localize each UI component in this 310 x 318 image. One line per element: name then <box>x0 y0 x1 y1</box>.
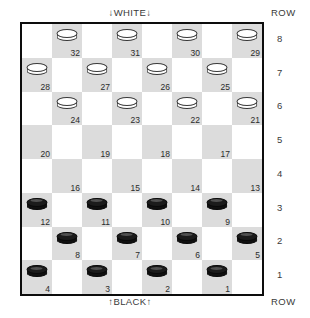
square-number-label: 5 <box>255 250 260 260</box>
board-square-light <box>82 227 112 261</box>
piece-face <box>237 97 258 106</box>
row-number-3: 3 <box>277 202 289 213</box>
board-square-22[interactable]: 22 <box>172 92 202 126</box>
board-square-9[interactable]: 9 <box>202 193 232 227</box>
square-number-label: 23 <box>131 115 140 125</box>
row-number-6: 6 <box>277 100 289 111</box>
board-square-light <box>172 58 202 92</box>
board-square-2[interactable]: 2 <box>142 260 172 294</box>
white-side-caption: ↓WHITE↓ <box>0 7 260 18</box>
black-piece-5[interactable] <box>237 232 258 246</box>
board-square-7[interactable]: 7 <box>112 227 142 261</box>
white-piece-28[interactable] <box>27 63 48 77</box>
black-piece-2[interactable] <box>147 265 168 279</box>
board-square-1[interactable]: 1 <box>202 260 232 294</box>
white-piece-24[interactable] <box>57 97 78 111</box>
board-square-31[interactable]: 31 <box>112 24 142 58</box>
square-number-label: 21 <box>251 115 260 125</box>
board-square-11[interactable]: 11 <box>82 193 112 227</box>
board-square-30[interactable]: 30 <box>172 24 202 58</box>
white-piece-21[interactable] <box>237 97 258 111</box>
board-square-20[interactable]: 20 <box>22 125 52 159</box>
square-number-label: 13 <box>251 183 260 193</box>
board-square-18[interactable]: 18 <box>142 125 172 159</box>
white-piece-23[interactable] <box>117 97 138 111</box>
black-piece-3[interactable] <box>87 265 108 279</box>
board-square-light <box>202 159 232 193</box>
board-square-24[interactable]: 24 <box>52 92 82 126</box>
square-number-label: 8 <box>75 250 80 260</box>
white-piece-31[interactable] <box>117 29 138 43</box>
white-piece-27[interactable] <box>87 63 108 77</box>
black-piece-1[interactable] <box>207 265 228 279</box>
board-square-29[interactable]: 29 <box>232 24 262 58</box>
board-square-21[interactable]: 21 <box>232 92 262 126</box>
square-number-label: 17 <box>221 149 230 159</box>
white-piece-29[interactable] <box>237 29 258 43</box>
black-piece-10[interactable] <box>147 198 168 212</box>
square-number-label: 9 <box>225 217 230 227</box>
board-square-10[interactable]: 10 <box>142 193 172 227</box>
board-square-6[interactable]: 6 <box>172 227 202 261</box>
square-number-label: 19 <box>101 149 110 159</box>
white-piece-26[interactable] <box>147 63 168 77</box>
black-piece-6[interactable] <box>177 232 198 246</box>
piece-highlight <box>151 199 163 202</box>
square-number-label: 2 <box>165 284 170 294</box>
white-piece-25[interactable] <box>207 63 228 77</box>
board-square-32[interactable]: 32 <box>52 24 82 58</box>
piece-face <box>57 29 78 38</box>
board-square-light <box>172 125 202 159</box>
square-number-label: 16 <box>71 183 80 193</box>
black-piece-12[interactable] <box>27 198 48 212</box>
black-piece-4[interactable] <box>27 265 48 279</box>
square-number-label: 24 <box>71 115 80 125</box>
piece-highlight <box>151 267 163 270</box>
piece-face <box>177 97 198 106</box>
board-square-light <box>82 92 112 126</box>
board-square-19[interactable]: 19 <box>82 125 112 159</box>
checkers-board-page: ↓WHITE↓ ROW 87654321 3231302928272625242… <box>0 0 310 318</box>
board-square-light <box>52 58 82 92</box>
board-square-25[interactable]: 25 <box>202 58 232 92</box>
square-number-label: 14 <box>191 183 200 193</box>
checkers-board[interactable]: 3231302928272625242322212019181716151413… <box>20 22 264 296</box>
piece-face <box>57 97 78 106</box>
black-piece-9[interactable] <box>207 198 228 212</box>
board-square-5[interactable]: 5 <box>232 227 262 261</box>
board-square-4[interactable]: 4 <box>22 260 52 294</box>
board-square-light <box>232 193 262 227</box>
board-square-28[interactable]: 28 <box>22 58 52 92</box>
square-number-label: 12 <box>41 217 50 227</box>
black-piece-11[interactable] <box>87 198 108 212</box>
square-number-label: 28 <box>41 82 50 92</box>
white-piece-32[interactable] <box>57 29 78 43</box>
board-square-light <box>82 24 112 58</box>
board-square-14[interactable]: 14 <box>172 159 202 193</box>
board-square-8[interactable]: 8 <box>52 227 82 261</box>
board-square-16[interactable]: 16 <box>52 159 82 193</box>
board-square-light <box>142 227 172 261</box>
board-square-15[interactable]: 15 <box>112 159 142 193</box>
board-square-26[interactable]: 26 <box>142 58 172 92</box>
square-number-label: 27 <box>101 82 110 92</box>
white-piece-30[interactable] <box>177 29 198 43</box>
board-square-light <box>232 125 262 159</box>
black-piece-8[interactable] <box>57 232 78 246</box>
board-square-13[interactable]: 13 <box>232 159 262 193</box>
piece-highlight <box>61 233 73 236</box>
board-square-17[interactable]: 17 <box>202 125 232 159</box>
board-square-light <box>82 159 112 193</box>
row-number-4: 4 <box>277 168 289 179</box>
board-square-23[interactable]: 23 <box>112 92 142 126</box>
piece-highlight <box>181 233 193 236</box>
black-piece-7[interactable] <box>117 232 138 246</box>
board-square-3[interactable]: 3 <box>82 260 112 294</box>
board-square-27[interactable]: 27 <box>82 58 112 92</box>
row-legend-top-label: ROW <box>271 7 296 18</box>
board-square-light <box>22 92 52 126</box>
white-piece-22[interactable] <box>177 97 198 111</box>
row-number-1: 1 <box>277 269 289 280</box>
board-square-light <box>142 159 172 193</box>
board-square-12[interactable]: 12 <box>22 193 52 227</box>
